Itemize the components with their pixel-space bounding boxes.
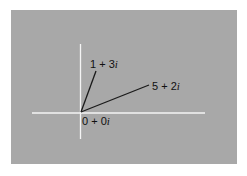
vector-1-plus-3i [81, 71, 96, 112]
label-1-plus-3i: 1 + 3i [90, 58, 118, 70]
complex-plane-diagram: 1 + 3i 5 + 2i 0 + 0i [0, 0, 247, 176]
label-origin-0-plus-0i: 0 + 0i [82, 115, 110, 127]
vector-5-plus-2i [81, 85, 149, 112]
label-5-plus-2i: 5 + 2i [152, 80, 180, 92]
